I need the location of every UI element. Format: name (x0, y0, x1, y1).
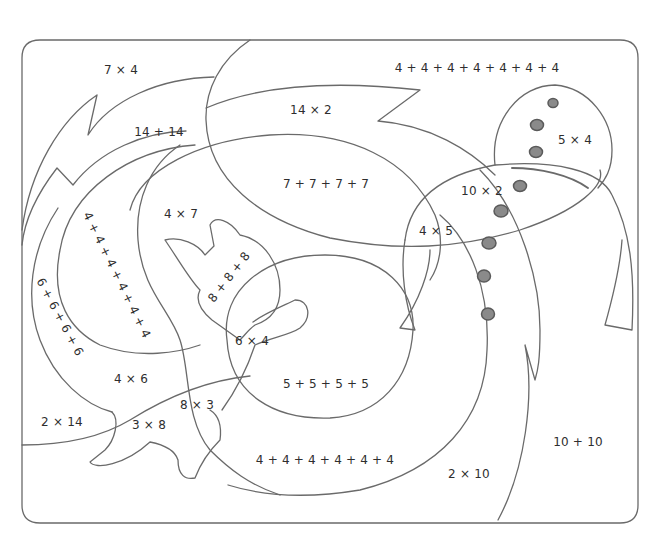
shell-dot (531, 120, 544, 131)
region-label[interactable]: 2 × 10 (448, 467, 490, 481)
shell-dots (478, 99, 559, 321)
region-outline (22, 376, 250, 445)
region-outline (206, 85, 495, 175)
region-label[interactable]: 8 × 3 (180, 398, 214, 412)
puzzle-drawing (0, 0, 663, 550)
region-label[interactable]: 4 + 4 + 4 + 4 + 4 + 4 (256, 453, 394, 467)
shell-dot (482, 237, 496, 249)
region-label[interactable]: 6 × 4 (235, 334, 269, 348)
shell-dot (548, 99, 558, 108)
region-label[interactable]: 4 × 7 (164, 207, 198, 221)
shell-dot (478, 270, 491, 282)
region-label[interactable]: 5 + 5 + 5 + 5 (283, 377, 369, 391)
shell-dot (530, 147, 543, 158)
shell-dot (494, 205, 508, 217)
region-label[interactable]: 4 + 4 + 4 + 4 + 4 + 4 + 4 (395, 61, 560, 75)
region-label[interactable]: 10 + 10 (553, 435, 603, 449)
region-label[interactable]: 4 × 6 (114, 372, 148, 386)
shell-dot (514, 181, 527, 192)
region-label[interactable]: 7 + 7 + 7 + 7 (283, 177, 369, 191)
region-label[interactable]: 14 + 14 (134, 125, 184, 139)
region-label[interactable]: 4 × 5 (419, 224, 453, 238)
region-label[interactable]: 5 × 4 (558, 133, 592, 147)
region-label[interactable]: 2 × 14 (41, 415, 83, 429)
region-label[interactable]: 7 × 4 (104, 63, 138, 77)
region-label[interactable]: 10 × 2 (461, 184, 503, 198)
region-label[interactable]: 14 × 2 (290, 103, 332, 117)
region-outline (57, 145, 200, 354)
region-label[interactable]: 3 × 8 (132, 418, 166, 432)
region-outline (222, 300, 308, 410)
region-outline (400, 240, 430, 330)
region-outline (138, 145, 280, 495)
shell-dot (482, 308, 495, 320)
